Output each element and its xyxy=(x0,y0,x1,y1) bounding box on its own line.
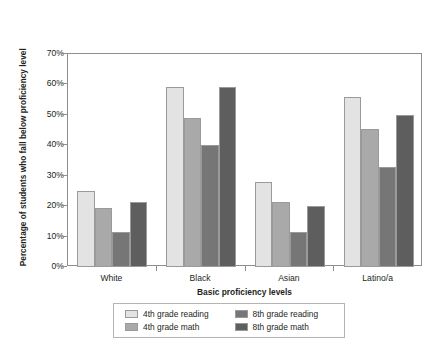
x-axis-category-label: Latino/a xyxy=(333,273,423,283)
bar xyxy=(219,87,237,267)
y-axis-tick-label: 20% xyxy=(4,200,64,210)
legend-item: 8th grade math xyxy=(235,323,345,331)
legend-label: 8th grade math xyxy=(253,323,309,331)
x-axis-category-label: Asian xyxy=(244,273,334,283)
y-axis-tick-label: 50% xyxy=(4,109,64,119)
bar xyxy=(255,182,273,267)
bar xyxy=(95,208,113,267)
bar xyxy=(272,202,290,267)
legend-label: 4th grade reading xyxy=(143,310,209,318)
legend-item: 8th grade reading xyxy=(235,310,345,318)
legend-swatch-icon xyxy=(235,310,248,318)
y-axis-tick-label: 60% xyxy=(4,78,64,88)
plot-area xyxy=(67,53,422,266)
legend-item: 4th grade math xyxy=(125,323,235,331)
bar xyxy=(396,115,414,267)
legend-swatch-icon xyxy=(125,323,138,331)
bar xyxy=(201,145,219,267)
bar xyxy=(166,87,184,267)
bar xyxy=(77,191,95,267)
bar xyxy=(361,129,379,267)
y-axis-tick-mark xyxy=(62,266,67,267)
legend-label: 4th grade math xyxy=(143,323,199,331)
x-axis-title: Basic proficiency levels xyxy=(67,287,422,297)
y-axis-tick-label: 0% xyxy=(4,261,64,271)
legend: 4th grade reading8th grade reading4th gr… xyxy=(113,303,345,338)
legend-items: 4th grade reading8th grade reading4th gr… xyxy=(114,304,344,337)
bar xyxy=(112,232,130,267)
legend-swatch-icon xyxy=(125,310,138,318)
x-axis-tick-mark xyxy=(156,266,157,271)
x-axis-category-label: White xyxy=(66,273,156,283)
bar xyxy=(379,167,397,267)
y-axis-tick-label: 30% xyxy=(4,170,64,180)
y-axis-tick-label: 70% xyxy=(4,48,64,58)
bar xyxy=(290,232,308,267)
x-axis-tick-mark xyxy=(245,266,246,271)
legend-item: 4th grade reading xyxy=(125,310,235,318)
bar-chart-figure: Percentage of students who fall below pr… xyxy=(0,0,436,353)
x-axis-tick-mark xyxy=(333,266,334,271)
y-axis-tick-label: 10% xyxy=(4,231,64,241)
bar xyxy=(184,118,202,267)
bar xyxy=(130,202,148,267)
legend-label: 8th grade reading xyxy=(253,310,319,318)
bar xyxy=(344,97,362,267)
x-axis-category-label: Black xyxy=(155,273,245,283)
bar xyxy=(307,206,325,267)
y-axis-tick-label: 40% xyxy=(4,139,64,149)
legend-swatch-icon xyxy=(235,323,248,331)
